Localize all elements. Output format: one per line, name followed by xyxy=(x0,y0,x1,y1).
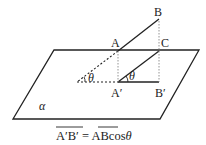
label-theta-outer: θ xyxy=(88,71,94,85)
formula: A′B′ = ABcosθ xyxy=(56,127,132,143)
angle-arc-inner xyxy=(126,76,128,82)
label-a-prime: A′ xyxy=(111,86,123,100)
segment-ab-extension xyxy=(77,51,118,82)
label-plane-alpha: α xyxy=(39,99,46,113)
segment-a-prime-c xyxy=(118,51,159,82)
projection-diagram: B A C A′ B′ θ θ α A′B′ = ABcosθ xyxy=(0,0,206,145)
label-b: B xyxy=(154,5,162,19)
formula-lhs: A′B′ xyxy=(56,129,79,143)
label-a: A xyxy=(111,36,120,50)
segment-ab xyxy=(118,19,159,51)
angle-arc-outer xyxy=(84,77,85,82)
formula-rhs-segment: AB xyxy=(91,129,108,143)
label-c: C xyxy=(161,36,169,50)
formula-text: A′B′ = ABcosθ xyxy=(56,129,132,143)
label-b-prime: B′ xyxy=(155,86,166,100)
formula-theta: θ xyxy=(126,129,132,143)
label-theta-inner: θ xyxy=(129,69,135,83)
formula-equals: = xyxy=(79,129,92,143)
formula-cos: cos xyxy=(109,129,126,143)
